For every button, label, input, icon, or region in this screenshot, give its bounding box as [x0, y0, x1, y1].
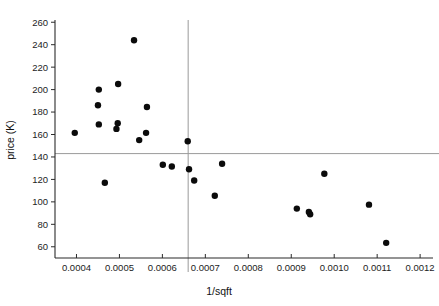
- axis-lines: [55, 20, 433, 258]
- x-tick-label: 0.0004: [62, 262, 91, 273]
- data-point: [160, 162, 166, 168]
- data-point: [96, 121, 102, 127]
- x-tick-label: 0.0012: [406, 262, 435, 273]
- y-tick-label: 240: [32, 39, 48, 50]
- y-tick-label: 100: [32, 196, 48, 207]
- data-point: [95, 102, 101, 108]
- x-tick-label: 0.0006: [148, 262, 177, 273]
- data-point: [219, 160, 225, 166]
- data-point: [143, 130, 149, 136]
- data-point: [169, 163, 175, 169]
- y-axis-title: price (K): [4, 120, 16, 160]
- data-point: [307, 211, 313, 217]
- scatter-plot-figure: 0.00040.00050.00060.00070.00080.00090.00…: [0, 0, 439, 306]
- x-tick-label: 0.0007: [191, 262, 220, 273]
- x-axis-tick-labels: 0.00040.00050.00060.00070.00080.00090.00…: [62, 262, 435, 273]
- y-axis-ticks: [51, 22, 55, 247]
- data-point: [144, 104, 150, 110]
- y-axis-tick-labels: 6080100120140160180200220240260: [32, 17, 48, 253]
- x-tick-label: 0.0009: [277, 262, 306, 273]
- x-tick-label: 0.0011: [363, 262, 391, 273]
- reference-lines: [55, 20, 439, 272]
- y-tick-label: 160: [32, 129, 48, 140]
- y-tick-label: 260: [32, 17, 48, 28]
- y-tick-label: 60: [37, 241, 48, 252]
- x-tick-label: 0.0005: [105, 262, 134, 273]
- data-points: [72, 37, 390, 246]
- plot-canvas: 0.00040.00050.00060.00070.00080.00090.00…: [0, 0, 439, 306]
- y-tick-label: 180: [32, 106, 48, 117]
- data-point: [115, 81, 121, 87]
- data-point: [113, 126, 119, 132]
- data-point: [72, 130, 78, 136]
- x-tick-label: 0.0010: [320, 262, 349, 273]
- y-tick-label: 120: [32, 174, 48, 185]
- y-tick-label: 80: [37, 219, 48, 230]
- data-point: [191, 177, 197, 183]
- data-point: [96, 86, 102, 92]
- data-point: [131, 37, 137, 43]
- data-point: [212, 192, 218, 198]
- y-tick-label: 200: [32, 84, 48, 95]
- x-axis-ticks: [76, 254, 420, 258]
- data-point: [102, 180, 108, 186]
- data-point: [136, 137, 142, 143]
- data-point: [115, 120, 121, 126]
- x-axis-title: 1/sqft: [206, 285, 232, 297]
- data-point: [185, 138, 191, 144]
- y-tick-label: 140: [32, 151, 48, 162]
- data-point: [294, 205, 300, 211]
- x-tick-label: 0.0008: [234, 262, 263, 273]
- data-point: [321, 171, 327, 177]
- data-point: [366, 201, 372, 207]
- data-point: [186, 166, 192, 172]
- data-point: [383, 240, 389, 246]
- y-tick-label: 220: [32, 62, 48, 73]
